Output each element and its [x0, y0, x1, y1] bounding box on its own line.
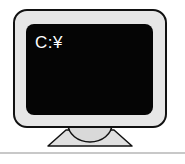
- command-prompt-text: C:¥: [35, 34, 63, 51]
- monitor-illustration: C:¥: [0, 0, 185, 164]
- divider: [0, 152, 185, 154]
- monitor-icon: [0, 0, 185, 164]
